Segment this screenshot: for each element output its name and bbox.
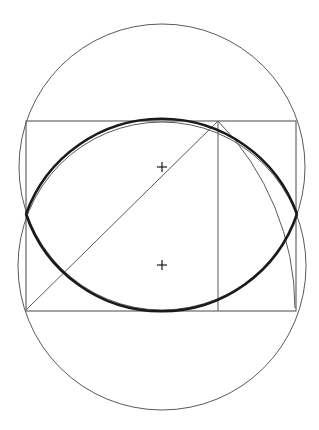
bounding-rectangle xyxy=(26,121,296,311)
center-cross-icon xyxy=(157,260,167,270)
center-marks xyxy=(157,162,167,270)
center-cross-icon xyxy=(157,162,167,172)
diagram-canvas xyxy=(0,0,319,430)
diagonal-construction-line xyxy=(26,121,218,310)
compass-swing-arc xyxy=(218,121,295,308)
ellipse-construction-diagram xyxy=(0,0,319,430)
